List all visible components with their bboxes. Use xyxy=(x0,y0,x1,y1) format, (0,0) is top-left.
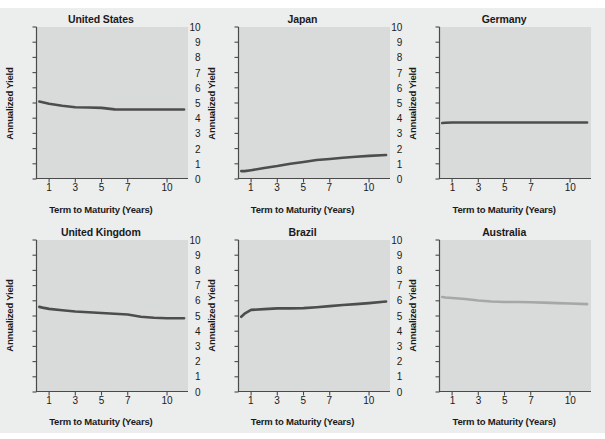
y-tick-label-group: 012345678910 xyxy=(171,27,201,179)
x-tick-label: 3 xyxy=(476,182,482,193)
x-tick-label: 1 xyxy=(46,395,52,406)
plot-area xyxy=(238,27,390,179)
x-tick-label: 1 xyxy=(248,395,254,406)
y-tick-label: 5 xyxy=(372,98,402,109)
y-axis-label: Annualized Yield xyxy=(2,241,16,391)
y-tick-label: 10 xyxy=(372,234,402,245)
x-tick-label: 3 xyxy=(476,395,482,406)
x-tick-label-group: 135710 xyxy=(238,182,390,196)
y-axis-label-text: Annualized Yield xyxy=(407,67,418,139)
x-tick-label: 1 xyxy=(450,395,456,406)
x-axis-label: Term to Maturity (Years) xyxy=(202,204,404,215)
x-tick-label-group: 135710 xyxy=(439,182,591,196)
y-tick-label: 0 xyxy=(171,174,201,185)
chart-panel: AustraliaAnnualized YieldTerm to Maturit… xyxy=(403,221,605,434)
y-tick-label: 8 xyxy=(372,264,402,275)
axes-svg xyxy=(238,27,392,181)
y-tick-label: 8 xyxy=(171,264,201,275)
y-tick-label: 7 xyxy=(171,280,201,291)
chart-figure: United StatesAnnualized YieldTerm to Mat… xyxy=(0,0,605,439)
plot-area xyxy=(439,240,591,392)
x-tick-label: 5 xyxy=(300,182,306,193)
y-tick-label: 6 xyxy=(171,295,201,306)
x-tick-label-group: 135710 xyxy=(238,395,390,409)
y-axis-label: Annualized Yield xyxy=(2,28,16,178)
panel-title: Australia xyxy=(403,226,605,238)
x-tick-label: 5 xyxy=(99,182,105,193)
y-tick-label: 2 xyxy=(372,143,402,154)
x-tick-label-group: 135710 xyxy=(439,395,591,409)
y-tick-label: 9 xyxy=(372,249,402,260)
y-tick-label: 2 xyxy=(171,143,201,154)
x-tick-label: 7 xyxy=(125,182,131,193)
y-tick-label: 4 xyxy=(372,325,402,336)
y-tick-label: 3 xyxy=(372,340,402,351)
x-axis-label: Term to Maturity (Years) xyxy=(403,204,605,215)
axes-svg xyxy=(36,240,190,394)
x-axis-label: Term to Maturity (Years) xyxy=(0,416,202,427)
x-tick-label: 10 xyxy=(565,182,576,193)
y-tick-label: 5 xyxy=(171,98,201,109)
x-tick-label-group: 135710 xyxy=(36,182,188,196)
y-axis-label-text: Annualized Yield xyxy=(407,279,418,351)
x-tick-label: 3 xyxy=(274,182,280,193)
y-tick-label: 8 xyxy=(171,52,201,63)
y-tick-label-group: 012345678910 xyxy=(372,27,402,179)
panel-title: Germany xyxy=(403,13,605,25)
y-tick-label: 5 xyxy=(171,310,201,321)
y-axis-label-text: Annualized Yield xyxy=(205,279,216,351)
y-tick-label: 6 xyxy=(372,82,402,93)
x-tick-label: 1 xyxy=(46,182,52,193)
y-tick-label: 0 xyxy=(372,386,402,397)
plot-area xyxy=(36,27,188,179)
y-tick-label: 4 xyxy=(372,113,402,124)
y-tick-label: 9 xyxy=(171,37,201,48)
y-tick-label: 9 xyxy=(171,249,201,260)
y-tick-label: 8 xyxy=(372,52,402,63)
x-axis-label: Term to Maturity (Years) xyxy=(202,416,404,427)
x-tick-label: 3 xyxy=(73,395,79,406)
y-tick-label: 1 xyxy=(372,158,402,169)
plot-area xyxy=(36,240,188,392)
axes-svg xyxy=(439,240,593,394)
yield-curve-line xyxy=(241,301,386,316)
y-tick-label: 3 xyxy=(372,128,402,139)
x-tick-label: 7 xyxy=(327,182,333,193)
x-tick-label: 7 xyxy=(327,395,333,406)
y-tick-label: 2 xyxy=(171,356,201,367)
x-tick-label: 1 xyxy=(450,182,456,193)
x-tick-label: 1 xyxy=(248,182,254,193)
x-tick-label: 5 xyxy=(99,395,105,406)
y-tick-label: 3 xyxy=(171,340,201,351)
yield-curve-line xyxy=(241,155,386,171)
y-axis-label-text: Annualized Yield xyxy=(205,67,216,139)
x-tick-label: 5 xyxy=(300,395,306,406)
y-tick-label: 0 xyxy=(171,386,201,397)
y-tick-label-group: 012345678910 xyxy=(171,240,201,392)
yield-curve-line xyxy=(39,306,184,317)
y-tick-label: 1 xyxy=(372,371,402,382)
figure-bottom-margin xyxy=(0,433,605,439)
plot-area xyxy=(238,240,390,392)
y-tick-label: 10 xyxy=(171,22,201,33)
x-tick-label: 5 xyxy=(502,182,508,193)
y-tick-label: 5 xyxy=(372,310,402,321)
y-tick-label-group: 012345678910 xyxy=(372,240,402,392)
axes-svg xyxy=(238,240,392,394)
yield-curve-line xyxy=(443,122,588,123)
panel-grid: United StatesAnnualized YieldTerm to Mat… xyxy=(0,8,605,433)
y-axis-label-text: Annualized Yield xyxy=(4,67,15,139)
x-tick-label: 10 xyxy=(565,395,576,406)
y-axis-label: Annualized Yield xyxy=(204,28,218,178)
x-tick-label: 3 xyxy=(73,182,79,193)
y-tick-label: 7 xyxy=(372,67,402,78)
y-tick-label: 3 xyxy=(171,128,201,139)
yield-curve-line xyxy=(443,297,588,304)
y-axis-label: Annualized Yield xyxy=(405,28,419,178)
y-tick-label: 6 xyxy=(171,82,201,93)
y-tick-label: 6 xyxy=(372,295,402,306)
y-tick-label: 4 xyxy=(171,325,201,336)
y-axis-label-text: Annualized Yield xyxy=(4,279,15,351)
yield-curve-line xyxy=(39,101,184,109)
y-tick-label: 7 xyxy=(171,67,201,78)
